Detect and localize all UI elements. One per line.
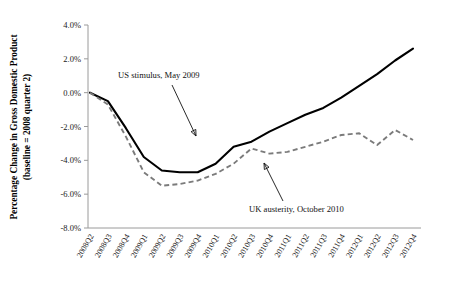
y-tick-label: 2.0% xyxy=(63,54,81,64)
annotation-arrow-0 xyxy=(172,85,196,136)
y-axis-title-line2: (baseline = 2008 quarter 2) xyxy=(22,74,33,180)
y-axis-title-line1: Percentage Change in Gross Domestic Prod… xyxy=(9,34,19,220)
annotation-label-0: US stimulus, May 2009 xyxy=(118,70,200,80)
series-line-dashed xyxy=(90,93,413,186)
y-tick-label: -2.0% xyxy=(60,122,81,132)
y-tick-label: -6.0% xyxy=(60,189,81,199)
series-line-solid xyxy=(90,49,413,173)
y-tick-label: -8.0% xyxy=(60,223,81,233)
chart-canvas: Percentage Change in Gross Domestic Prod… xyxy=(0,0,451,289)
x-tick-label: 2012Q4 xyxy=(398,233,419,260)
y-tick-label: 4.0% xyxy=(63,20,81,30)
x-axis-ticks: 2008Q22008Q32008Q42009Q12009Q22009Q32009… xyxy=(75,233,419,260)
y-axis-title: Percentage Change in Gross Domestic Prod… xyxy=(9,34,33,220)
annotation-arrow-1 xyxy=(264,163,283,201)
y-tick-label: -4.0% xyxy=(60,155,81,165)
annotation-label-1: UK austerity, October 2010 xyxy=(249,204,344,214)
y-tick-label: 0.0% xyxy=(63,88,81,98)
gdp-change-line-chart: Percentage Change in Gross Domestic Prod… xyxy=(0,0,451,289)
y-axis-ticks: 4.0%2.0%0.0%-2.0%-4.0%-6.0%-8.0% xyxy=(60,20,88,233)
annotation-layer: US stimulus, May 2009UK austerity, Octob… xyxy=(118,70,344,214)
